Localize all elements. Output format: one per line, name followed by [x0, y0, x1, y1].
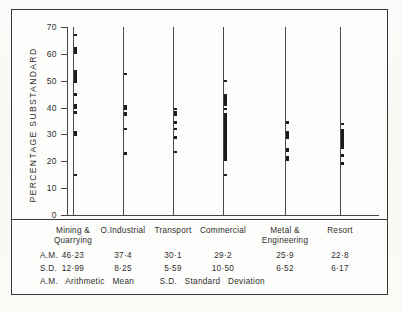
stat-standard-deviation: 6·17 — [300, 264, 380, 273]
data-point — [224, 174, 227, 176]
data-point — [224, 104, 227, 106]
data-point — [74, 107, 77, 109]
data-point — [341, 147, 344, 149]
data-point — [341, 155, 344, 157]
y-tick-label: 20 — [37, 156, 57, 166]
y-tick — [61, 27, 67, 28]
y-tick — [61, 54, 67, 55]
data-point — [286, 150, 289, 152]
footnote-legend: A.M. Arithmetic Mean S.D. Standard Devia… — [40, 277, 265, 286]
data-point — [224, 108, 227, 110]
data-point — [174, 113, 177, 115]
stat-arithmetic-mean: 22·8 — [300, 251, 380, 260]
data-point — [341, 163, 344, 165]
data-point — [174, 136, 177, 138]
data-point — [74, 93, 77, 95]
data-point — [286, 159, 289, 161]
data-point — [174, 121, 177, 123]
y-axis-line — [67, 27, 68, 215]
data-point — [124, 108, 127, 110]
y-tick-label: 50 — [37, 76, 57, 86]
category-axis-line — [340, 27, 341, 215]
data-point — [124, 152, 127, 154]
y-tick-label: 40 — [37, 103, 57, 113]
data-point — [174, 151, 177, 153]
category-axis-line — [123, 27, 124, 215]
y-tick-label: 60 — [37, 49, 57, 59]
y-tick — [61, 81, 67, 82]
data-point — [124, 113, 127, 115]
y-tick — [61, 108, 67, 109]
data-point — [174, 108, 177, 110]
data-point — [124, 128, 127, 130]
category-label: Resort — [298, 226, 382, 236]
data-point — [286, 136, 289, 138]
y-tick-label: 30 — [37, 129, 57, 139]
data-point — [74, 52, 77, 54]
data-point — [74, 81, 77, 83]
y-tick — [61, 161, 67, 162]
y-tick — [61, 188, 67, 189]
data-point — [74, 174, 77, 176]
data-point — [74, 133, 77, 135]
y-tick — [61, 134, 67, 135]
category-axis-line — [73, 27, 74, 215]
y-tick-label: 70 — [37, 22, 57, 32]
y-tick — [61, 215, 67, 216]
data-point — [174, 128, 177, 130]
x-axis-baseline — [67, 215, 379, 216]
data-point — [224, 159, 227, 161]
data-point — [74, 34, 77, 36]
table-separator — [12, 219, 387, 220]
data-point — [341, 123, 344, 125]
data-point — [124, 73, 127, 75]
strip-plot: PERCENTAGE SUBSTANDARD 010203040506070 M… — [0, 0, 402, 312]
y-tick-label: 10 — [37, 183, 57, 193]
data-point — [74, 112, 77, 114]
data-point — [224, 80, 227, 82]
data-point — [286, 121, 289, 123]
